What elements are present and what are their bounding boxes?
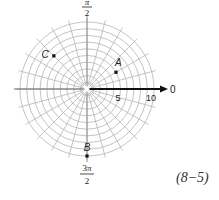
radius-label-10: 10 [146, 93, 156, 103]
arrowhead-icon [160, 86, 168, 93]
point-b-marker [85, 154, 88, 157]
grid-spoke [18, 90, 83, 107]
grid-spoke [91, 71, 156, 88]
angle-label-top-numerator: π [85, 0, 90, 7]
point-a-marker [114, 71, 117, 74]
grid-spoke [90, 92, 137, 139]
point-b-label: B [84, 142, 91, 153]
radius-label-5: 5 [115, 93, 120, 103]
figure-reference: (8−5) [176, 170, 209, 186]
angle-label-bottom-numerator: 3π [82, 163, 92, 173]
grid-spoke [37, 92, 84, 139]
polar-axes [14, 16, 168, 162]
angle-label-bottom-denominator: 2 [85, 176, 90, 186]
point-a-label: A [114, 57, 122, 68]
grid-spoke [88, 93, 105, 158]
pole [85, 87, 90, 92]
point-c-marker [52, 54, 55, 57]
grid-spoke [69, 20, 86, 85]
angle-label-zero: 0 [170, 84, 176, 95]
angle-label-top-denominator: 2 [85, 8, 90, 18]
grid-spoke [37, 39, 84, 86]
grid-spoke [90, 39, 137, 86]
grid-spoke [88, 20, 105, 85]
angle-label-3pi-over-2: 3π 2 [80, 163, 94, 186]
grid-spoke [18, 71, 83, 88]
angle-label-pi-over-2: π 2 [82, 0, 92, 18]
point-c-label: C [42, 49, 50, 60]
